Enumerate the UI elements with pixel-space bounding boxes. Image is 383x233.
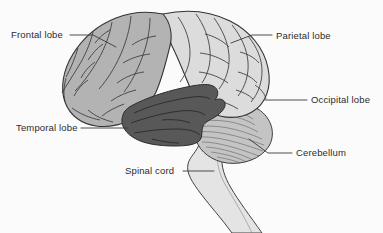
label-frontal-lobe: Frontal lobe bbox=[11, 30, 63, 40]
label-parietal-lobe: Parietal lobe bbox=[276, 31, 331, 41]
brain-anatomy-figure: Frontal lobe Parietal lobe Occipital lob… bbox=[0, 0, 383, 233]
label-spinal-cord: Spinal cord bbox=[125, 166, 174, 176]
label-cerebellum: Cerebellum bbox=[296, 148, 346, 158]
label-occipital-lobe: Occipital lobe bbox=[311, 95, 370, 105]
label-temporal-lobe: Temporal lobe bbox=[16, 123, 78, 133]
